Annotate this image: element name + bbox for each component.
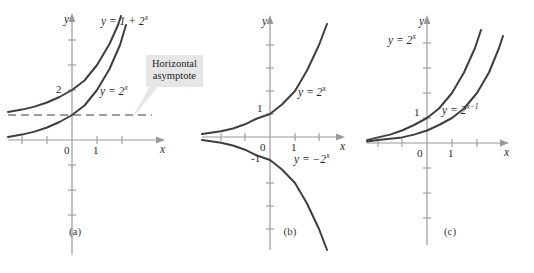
y-axis-a (68, 13, 76, 255)
curve-label-2-to-the-x-c: y = 2x (388, 33, 416, 46)
curve-label-2-to-the-x-b: y = 2x (298, 85, 326, 98)
callout-tail-a (132, 82, 162, 118)
y-tick-label-1-c: 1 (414, 107, 420, 118)
curve-y-equals-1-plus-2-to-the-x-a (8, 16, 121, 112)
y-tick-label-2-a: 2 (56, 84, 62, 95)
panel-caption-b: (b) (270, 225, 310, 237)
x-tick-label-0-a: 0 (64, 145, 70, 156)
x-tick-label-0-c: 0 (417, 148, 423, 159)
curve-y-equals-2-to-the-x-b (202, 24, 327, 134)
panel-c: y x 1 0 1 y = 2x y = 2x−1 (c) (362, 0, 534, 273)
panel-a: y x 2 0 1 y = 1 + 2x y = 2x Horizontal a… (0, 0, 190, 273)
curve-label-negative-2-to-the-x-b: y = −2x (294, 152, 329, 165)
curve-y-equals-2-to-the-x-minus-1-c (367, 36, 503, 142)
y-axis-label-a: y (64, 14, 69, 26)
x-axis-label-c: x (504, 147, 509, 159)
panel-caption-c: (c) (430, 225, 470, 237)
curve-y-equals-2-to-the-x-a (8, 25, 126, 137)
curve-label-2-to-the-x-a: y = 2x (100, 84, 128, 97)
curve-label-2-to-the-x-minus-1-c: y = 2x−1 (442, 103, 479, 116)
x-axis-b (202, 133, 345, 141)
x-tick-label-0-b: 0 (260, 142, 266, 153)
panel-b: y x 1 -1 0 1 y = 2x y = −2x (b) (190, 0, 362, 273)
y-tick-label-1-b: 1 (257, 103, 263, 114)
panel-a-plot (0, 0, 190, 273)
x-axis-label-a: x (160, 144, 165, 156)
curve-label-1-plus-2-to-the-x: y = 1 + 2x (101, 14, 148, 27)
curve-y-equals-2-to-the-x-c (367, 30, 481, 140)
y-axis-label-c: y (419, 16, 424, 28)
panel-caption-a: (a) (55, 225, 95, 237)
x-tick-label-1-a: 1 (93, 145, 99, 156)
x-axis-a (8, 136, 165, 144)
x-axis-label-b: x (340, 141, 345, 153)
y-axis-b (266, 15, 274, 250)
y-axis-label-b: y (262, 16, 267, 28)
x-axis-c (367, 139, 509, 147)
x-tick-label-1-c: 1 (448, 148, 454, 159)
y-tick-label-neg1-b: -1 (251, 153, 260, 164)
